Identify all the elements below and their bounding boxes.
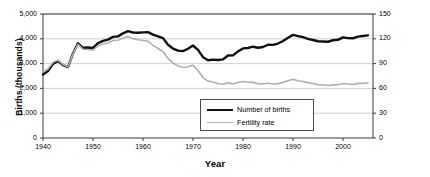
chart-legend: Number of births Fertility rate (200, 99, 314, 131)
legend-item-fertility-rate: Fertility rate (205, 116, 309, 129)
legend-label-fertility-rate: Fertility rate (237, 118, 275, 127)
births-line-swatch (207, 109, 233, 111)
plot-area (0, 0, 430, 177)
fertility-line-swatch (207, 122, 233, 123)
legend-label-number-of-births: Number of births (237, 105, 290, 114)
series-line-fertility-rate (43, 36, 368, 85)
chart-figure: Births (thousands) Fertility rate (per 1… (0, 0, 430, 177)
series-line-number-of-births (43, 31, 368, 74)
legend-item-number-of-births: Number of births (205, 103, 309, 116)
